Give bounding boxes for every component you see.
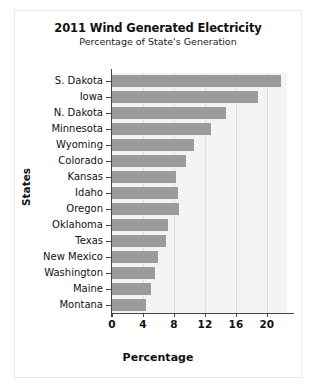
bar[interactable] xyxy=(112,203,179,215)
bar[interactable] xyxy=(112,123,211,135)
x-axis-title: Percentage xyxy=(15,351,301,364)
y-tick-label-oregon: Oregon xyxy=(15,204,103,214)
bar[interactable] xyxy=(112,187,178,199)
bar[interactable] xyxy=(112,219,168,231)
bar[interactable] xyxy=(112,299,146,311)
bar[interactable] xyxy=(112,267,155,279)
x-tick-label-12: 12 xyxy=(193,318,217,330)
y-tick-mark xyxy=(106,129,111,130)
bar-slot xyxy=(112,121,287,137)
bar-slot xyxy=(112,185,287,201)
y-tick-label-minnesota: Minnesota xyxy=(15,124,103,134)
y-tick-mark xyxy=(106,97,111,98)
y-tick-mark xyxy=(106,209,111,210)
y-tick-label-new-mexico: New Mexico xyxy=(15,252,103,262)
bar-slot xyxy=(112,233,287,249)
y-tick-label-wyoming: Wyoming xyxy=(15,140,103,150)
y-tick-mark xyxy=(106,257,111,258)
bar-slot xyxy=(112,169,287,185)
y-tick-label-montana: Montana xyxy=(15,300,103,310)
y-tick-mark xyxy=(106,225,111,226)
x-tick-mark xyxy=(205,313,206,317)
bar-slot xyxy=(112,297,287,313)
y-tick-label-kansas: Kansas xyxy=(15,172,103,182)
bar-slot xyxy=(112,89,287,105)
x-tick-mark xyxy=(267,313,268,317)
bar[interactable] xyxy=(112,283,151,295)
bar[interactable] xyxy=(112,171,176,183)
bar[interactable] xyxy=(112,155,186,167)
y-tick-label-maine: Maine xyxy=(15,284,103,294)
y-tick-label-oklahoma: Oklahoma xyxy=(15,220,103,230)
y-tick-mark xyxy=(106,193,111,194)
bar-slot xyxy=(112,281,287,297)
y-tick-label-s-dakota: S. Dakota xyxy=(15,76,103,86)
y-tick-mark xyxy=(106,113,111,114)
bar[interactable] xyxy=(112,91,258,103)
y-tick-label-texas: Texas xyxy=(15,236,103,246)
y-tick-label-colorado: Colorado xyxy=(15,156,103,166)
bar[interactable] xyxy=(112,107,226,119)
x-tick-mark xyxy=(236,313,237,317)
plot-area xyxy=(112,73,287,313)
title-block: 2011 Wind Generated Electricity Percenta… xyxy=(15,21,301,48)
bar[interactable] xyxy=(112,251,158,263)
x-tick-label-8: 8 xyxy=(162,318,186,330)
y-tick-mark xyxy=(106,273,111,274)
y-tick-label-n-dakota: N. Dakota xyxy=(15,108,103,118)
chart-subtitle: Percentage of State's Generation xyxy=(15,35,301,48)
y-tick-label-iowa: Iowa xyxy=(15,92,103,102)
y-tick-mark xyxy=(106,289,111,290)
bar-slot xyxy=(112,249,287,265)
y-tick-mark xyxy=(106,81,111,82)
y-tick-mark xyxy=(106,305,111,306)
bar-slot xyxy=(112,137,287,153)
x-tick-label-0: 0 xyxy=(100,318,124,330)
x-tick-mark xyxy=(112,313,113,317)
bar-slot xyxy=(112,153,287,169)
bar[interactable] xyxy=(112,235,166,247)
bar[interactable] xyxy=(112,139,194,151)
x-tick-label-20: 20 xyxy=(255,318,279,330)
chart-title: 2011 Wind Generated Electricity xyxy=(15,21,301,35)
y-axis-line xyxy=(111,69,112,317)
bar-slot xyxy=(112,201,287,217)
y-tick-label-idaho: Idaho xyxy=(15,188,103,198)
x-tick-label-4: 4 xyxy=(131,318,155,330)
x-tick-label-16: 16 xyxy=(224,318,248,330)
x-tick-mark xyxy=(174,313,175,317)
bar[interactable] xyxy=(112,75,281,87)
bar-slot xyxy=(112,265,287,281)
x-tick-mark xyxy=(143,313,144,317)
y-tick-label-washington: Washington xyxy=(15,268,103,278)
bar-slot xyxy=(112,73,287,89)
bar-slot xyxy=(112,217,287,233)
bar-series xyxy=(112,73,287,313)
y-tick-mark xyxy=(106,177,111,178)
y-tick-mark xyxy=(106,241,111,242)
y-tick-mark xyxy=(106,145,111,146)
chart-figure: 2011 Wind Generated Electricity Percenta… xyxy=(14,10,302,378)
y-tick-mark xyxy=(106,161,111,162)
bar-slot xyxy=(112,105,287,121)
